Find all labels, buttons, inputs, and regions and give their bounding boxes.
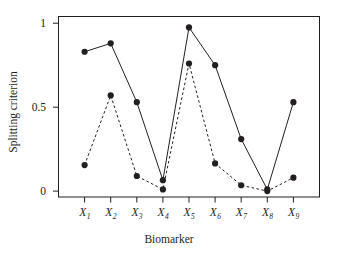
data-point-marker — [108, 40, 114, 46]
x-tick-label: X9 — [288, 206, 299, 218]
x-tick-label-base: X — [184, 206, 191, 218]
data-point-marker — [108, 92, 114, 98]
x-tick-label: X4 — [158, 206, 169, 218]
x-tick-label: X5 — [184, 206, 195, 218]
x-tick-label-base: X — [262, 206, 269, 218]
x-axis-ticks — [85, 197, 294, 203]
data-point-marker — [212, 160, 218, 166]
x-tick-label-base: X — [210, 206, 217, 218]
data-point-marker — [82, 162, 88, 168]
data-point-marker — [238, 182, 244, 188]
data-point-marker — [186, 24, 192, 30]
data-point-marker — [134, 99, 140, 105]
x-tick-label-subscript: 3 — [139, 212, 143, 221]
x-tick-label-subscript: 4 — [165, 212, 169, 221]
x-tick-label: X8 — [262, 206, 273, 218]
x-tick-label-base: X — [158, 206, 165, 218]
y-tick-label: 0 — [18, 185, 46, 197]
y-axis-title: Splitting criterion — [7, 52, 19, 172]
x-tick-label: X6 — [210, 206, 221, 218]
y-axis-ticks — [53, 23, 59, 191]
x-tick-label-subscript: 6 — [217, 212, 221, 221]
x-tick-label-subscript: 9 — [295, 212, 299, 221]
x-tick-label: X3 — [131, 206, 142, 218]
series-line-solid-series — [85, 27, 294, 189]
x-tick-label: X2 — [105, 206, 116, 218]
series-lines — [85, 27, 294, 191]
x-tick-label-subscript: 1 — [87, 212, 91, 221]
y-tick-label: 1 — [18, 17, 46, 29]
data-point-marker — [134, 173, 140, 179]
data-point-marker — [290, 99, 296, 105]
data-point-marker — [264, 188, 270, 194]
data-point-marker — [212, 62, 218, 68]
x-tick-label-base: X — [236, 206, 243, 218]
series-line-dashed-series — [85, 64, 294, 192]
x-tick-label: X1 — [79, 206, 90, 218]
x-tick-label-subscript: 5 — [191, 212, 195, 221]
plot-frame — [59, 17, 320, 198]
data-point-marker — [186, 60, 192, 66]
y-tick-label: 0.5 — [18, 101, 46, 113]
data-point-marker — [290, 175, 296, 181]
x-tick-label-subscript: 8 — [269, 212, 273, 221]
x-tick-label: X7 — [236, 206, 247, 218]
data-point-marker — [238, 136, 244, 142]
x-tick-label-base: X — [288, 206, 295, 218]
x-axis-title: Biomarker — [0, 233, 338, 245]
x-tick-label-base: X — [79, 206, 86, 218]
data-point-marker — [82, 49, 88, 55]
x-tick-label-base: X — [131, 206, 138, 218]
data-point-marker — [160, 177, 166, 183]
x-tick-label-base: X — [105, 206, 112, 218]
x-tick-label-subscript: 7 — [243, 212, 247, 221]
plot-border — [59, 17, 320, 198]
data-point-marker — [160, 186, 166, 192]
x-tick-label-subscript: 2 — [113, 212, 117, 221]
chart-figure: 00.51 X1X2X3X4X5X6X7X8X9 Biomarker Split… — [0, 0, 338, 254]
